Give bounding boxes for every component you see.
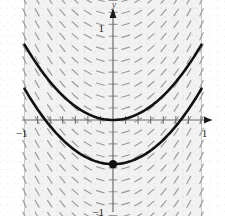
x-tick-label-neg1: −1 bbox=[16, 127, 28, 139]
x-tick-label-pos1: 1 bbox=[202, 127, 208, 139]
initial-condition-dot bbox=[109, 160, 117, 168]
y-tick-label-neg1: −1 bbox=[92, 206, 104, 216]
y-tick-label-pos1: 1 bbox=[99, 22, 105, 34]
slope-field-plot: 1−1−11y bbox=[0, 0, 225, 216]
annotation-points-group bbox=[109, 160, 117, 168]
figure-canvas: 1−1−11y bbox=[0, 0, 225, 216]
y-axis-label: y bbox=[111, 0, 117, 10]
